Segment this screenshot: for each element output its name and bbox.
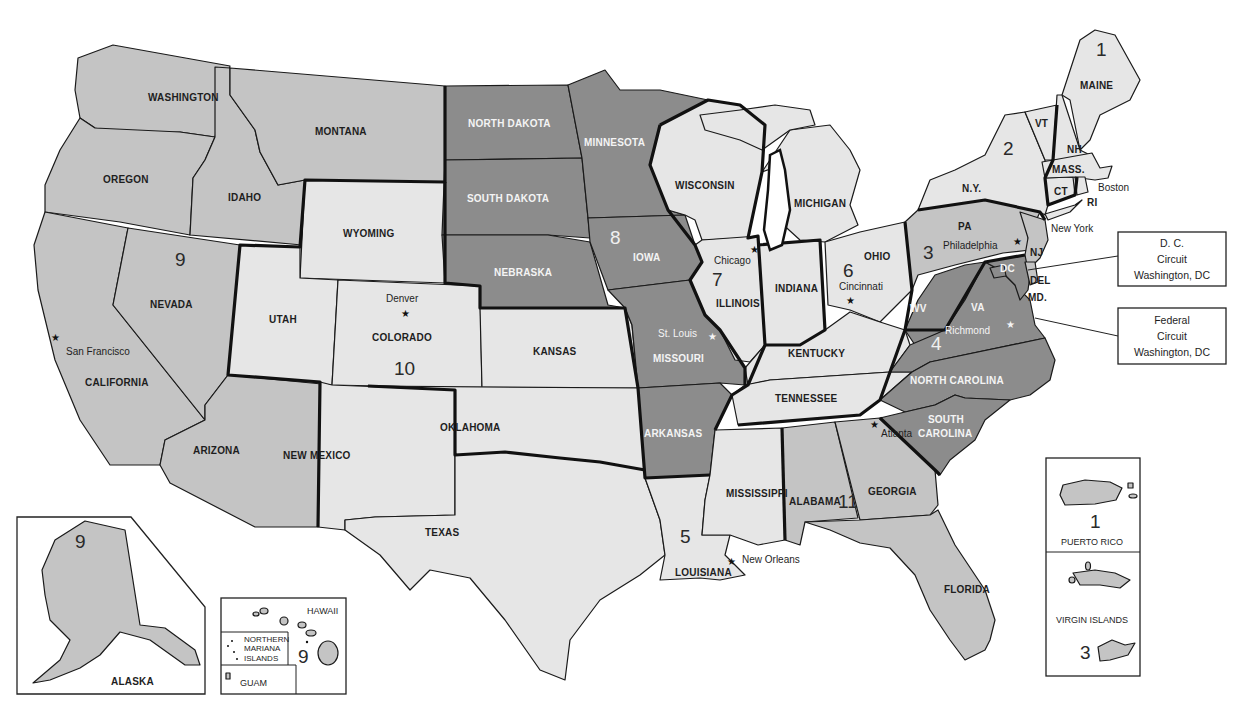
- star-icon: ★: [1006, 319, 1015, 330]
- label-maine: MAINE: [1080, 80, 1113, 91]
- federal-circuit-line3: Washington, DC: [1134, 346, 1210, 358]
- label-oregon: OREGON: [103, 174, 149, 185]
- state-ohio[interactable]: [825, 222, 912, 322]
- caribbean-inset: 1 PUERTO RICO VIRGIN ISLANDS 3: [1046, 458, 1140, 676]
- label-north-dakota: NORTH DAKOTA: [468, 118, 551, 129]
- circuit-number-1-pr: 1: [1090, 511, 1101, 532]
- label-mariana-3: ISLANDS: [244, 654, 278, 663]
- label-louisiana: LOUISIANA: [675, 567, 732, 578]
- city-denver: Denver: [386, 293, 419, 304]
- label-utah: UTAH: [269, 314, 297, 325]
- label-mississippi: MISSISSIPPI: [726, 488, 788, 499]
- label-west-virginia: WV: [910, 303, 927, 314]
- star-icon: ★: [870, 419, 879, 430]
- circuit-number-10: 10: [394, 358, 415, 379]
- label-dc: DC: [1000, 263, 1015, 274]
- city-new-york: New York: [1051, 223, 1094, 234]
- label-wisconsin: WISCONSIN: [675, 180, 735, 191]
- label-maryland: MD.: [1028, 292, 1047, 303]
- circuit-number-1: 1: [1096, 39, 1107, 60]
- dc-circuit-line3: Washington, DC: [1134, 269, 1210, 281]
- alaska-inset: 9 ALASKA: [17, 517, 205, 694]
- label-mariana-1: NORTHERN: [244, 635, 289, 644]
- city-st-louis: St. Louis: [658, 328, 697, 339]
- star-icon: ★: [401, 308, 410, 319]
- state-mississippi[interactable]: [702, 428, 785, 545]
- label-colorado: COLORADO: [372, 332, 432, 343]
- state-washington[interactable]: [75, 45, 230, 137]
- label-alaska: ALASKA: [111, 676, 154, 687]
- label-arkansas: ARKANSAS: [644, 428, 702, 439]
- label-new-mexico: NEW MEXICO: [283, 450, 351, 461]
- label-puerto-rico: PUERTO RICO: [1061, 537, 1123, 547]
- star-icon: ★: [846, 295, 855, 306]
- label-florida: FLORIDA: [944, 584, 990, 595]
- dc-circuit-line1: D. C.: [1160, 237, 1184, 249]
- label-wyoming: WYOMING: [343, 228, 394, 239]
- star-icon: ★: [1013, 236, 1022, 247]
- circuit-number-2: 2: [1003, 138, 1014, 159]
- federal-circuit-line1: Federal: [1154, 314, 1190, 326]
- label-ohio: OHIO: [864, 251, 890, 262]
- label-virginia: VA: [971, 302, 985, 313]
- label-washington: WASHINGTON: [148, 92, 219, 103]
- star-icon: ★: [727, 556, 736, 567]
- label-kansas: KANSAS: [533, 346, 577, 357]
- label-texas: TEXAS: [425, 527, 459, 538]
- circuit-number-6: 6: [843, 260, 854, 281]
- label-kentucky: KENTUCKY: [788, 348, 845, 359]
- label-tennessee: TENNESSEE: [775, 393, 838, 404]
- label-alabama: ALABAMA: [789, 496, 841, 507]
- city-san-francisco: San Francisco: [66, 346, 130, 357]
- city-new-orleans: New Orleans: [742, 554, 800, 565]
- circuit-number-9-pacific: 9: [298, 646, 309, 667]
- city-cincinnati: Cincinnati: [839, 281, 883, 292]
- label-idaho: IDAHO: [228, 192, 261, 203]
- label-virgin-islands: VIRGIN ISLANDS: [1056, 615, 1128, 625]
- judicial-circuits-map: WASHINGTON OREGON IDAHO MONTANA NEVADA C…: [0, 0, 1247, 719]
- circuit-number-8: 8: [610, 227, 621, 248]
- label-missouri: MISSOURI: [653, 353, 704, 364]
- label-vermont: VT: [1035, 118, 1048, 129]
- dc-circuit-line2: Circuit: [1157, 253, 1187, 265]
- label-guam: GUAM: [240, 678, 267, 688]
- city-philadelphia: Philadelphia: [943, 240, 998, 251]
- circuit-number-3-vi: 3: [1080, 642, 1091, 663]
- city-richmond: Richmond: [945, 325, 990, 336]
- circuit-number-5: 5: [680, 526, 691, 547]
- dc-circuit-callout[interactable]: D. C. Circuit Washington, DC: [1028, 232, 1226, 286]
- circuit-number-3: 3: [923, 242, 934, 263]
- label-california: CALIFORNIA: [85, 377, 149, 388]
- city-atlanta: Atlanta: [881, 428, 913, 439]
- label-nevada: NEVADA: [150, 299, 193, 310]
- label-south-carolina-2: CAROLINA: [918, 428, 972, 439]
- label-new-jersey: NJ: [1030, 247, 1043, 258]
- label-rhode-island: RI: [1087, 197, 1097, 208]
- label-new-york: N.Y.: [962, 183, 981, 194]
- label-georgia: GEORGIA: [868, 486, 917, 497]
- label-arizona: ARIZONA: [193, 445, 240, 456]
- circuit-number-4: 4: [931, 333, 942, 354]
- star-icon: ★: [51, 332, 60, 343]
- label-connecticut: CT: [1054, 186, 1068, 197]
- circuit-11-region: [782, 418, 995, 660]
- star-icon: ★: [708, 331, 717, 342]
- star-icon: ★: [750, 244, 759, 255]
- label-montana: MONTANA: [315, 126, 367, 137]
- circuit-number-11: 11: [838, 491, 858, 512]
- label-iowa: IOWA: [633, 252, 660, 263]
- circuit-number-7: 7: [712, 269, 723, 290]
- label-delaware: DEL: [1030, 275, 1051, 286]
- circuit-number-9-alaska: 9: [75, 531, 86, 552]
- label-south-carolina-1: SOUTH: [928, 414, 964, 425]
- pacific-inset: HAWAII NORTHERN MARIANA ISLANDS 9 GUAM: [221, 598, 346, 694]
- city-chicago: Chicago: [714, 255, 751, 266]
- label-hawaii: HAWAII: [307, 606, 338, 616]
- city-boston: Boston: [1098, 182, 1129, 193]
- label-michigan: MICHIGAN: [794, 198, 846, 209]
- island-hawaii[interactable]: [318, 641, 338, 665]
- label-nebraska: NEBRASKA: [494, 267, 552, 278]
- label-illinois: ILLINOIS: [716, 298, 760, 309]
- label-mariana-2: MARIANA: [244, 644, 281, 653]
- federal-circuit-callout[interactable]: Federal Circuit Washington, DC: [1035, 308, 1226, 364]
